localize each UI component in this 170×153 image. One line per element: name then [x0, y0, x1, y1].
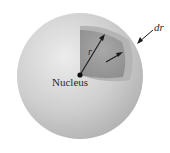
nucleus-label: Nucleus [52, 76, 88, 88]
dr-pointer-arrow [137, 30, 153, 44]
shell-thickness-label: dr [154, 21, 164, 33]
radius-label: r [88, 46, 92, 57]
